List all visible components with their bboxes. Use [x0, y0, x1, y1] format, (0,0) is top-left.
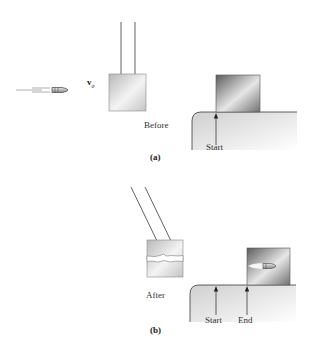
caption-a: (a) [150, 152, 161, 162]
panel-b [131, 187, 296, 322]
embedded-bullet-icon [263, 264, 276, 269]
bullet-motion-lines [16, 88, 50, 92]
panel-a [16, 22, 297, 150]
pendulum-strings [121, 22, 135, 75]
initial-velocity-label: vo [87, 77, 95, 91]
start-label-a: Start [206, 142, 223, 152]
start-label-b: Start [205, 315, 222, 325]
after-label: After [146, 290, 165, 300]
caption-b: (b) [150, 325, 161, 335]
ballistic-block-before [109, 74, 146, 111]
before-label: Before [144, 120, 169, 130]
block-on-table-end [247, 248, 290, 285]
pendulum-strings-swung [131, 187, 171, 241]
bullet-icon [52, 88, 68, 93]
block-on-table-start [216, 75, 260, 112]
end-label-b: End [238, 315, 253, 325]
ballistic-block-after [147, 240, 183, 277]
